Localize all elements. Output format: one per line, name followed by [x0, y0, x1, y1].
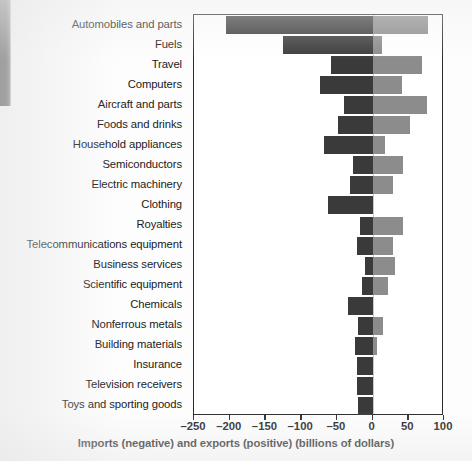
bar-row [194, 196, 442, 214]
x-tick-label: 100 [434, 420, 453, 432]
x-axis-title: Imports (negative) and exports (positive… [0, 437, 472, 449]
bar-row [194, 277, 442, 295]
bar-imports [365, 257, 373, 275]
category-label: Toys and sporting goods [62, 398, 182, 410]
bar-row [194, 156, 442, 174]
category-label: Semiconductors [102, 158, 182, 170]
bar-exports [373, 217, 403, 235]
category-label: Foods and drinks [97, 118, 182, 130]
bar-exports [373, 156, 404, 174]
bar-exports [373, 237, 393, 255]
bar-row [194, 16, 442, 34]
bar-row [194, 397, 442, 415]
bar-row [194, 136, 442, 154]
bar-row [194, 357, 442, 375]
bar-exports [373, 76, 402, 94]
bar-row [194, 176, 442, 194]
bar-row [194, 96, 442, 114]
category-label: Scientific equipment [83, 278, 182, 290]
bar-imports [362, 277, 373, 295]
bar-imports [355, 337, 373, 355]
category-label: Electric machinery [92, 178, 182, 190]
bar-imports [324, 136, 373, 154]
x-tick-label: –50 [326, 420, 345, 432]
x-tick-label: –100 [288, 420, 313, 432]
bar-exports [373, 16, 429, 34]
category-label: Chemicals [130, 298, 182, 310]
bar-imports [357, 237, 373, 255]
x-tick-label: 0 [368, 420, 374, 432]
x-tick-label: –250 [180, 420, 205, 432]
bar-row [194, 56, 442, 74]
category-label: Nonferrous metals [91, 318, 182, 330]
bar-imports [357, 377, 373, 395]
bar-exports [373, 176, 393, 194]
bar-exports [373, 317, 383, 335]
category-label: Computers [128, 78, 182, 90]
bar-row [194, 297, 442, 315]
bar-row [194, 217, 442, 235]
bar-exports [373, 257, 395, 275]
category-label: Television receivers [85, 378, 182, 390]
bar-imports [283, 36, 372, 54]
bar-row [194, 116, 442, 134]
category-label: Royalties [136, 218, 182, 230]
bar-imports [226, 16, 372, 34]
x-tick-label: –150 [252, 420, 277, 432]
bar-row [194, 317, 442, 335]
category-label: Aircraft and parts [98, 98, 182, 110]
bar-row [194, 257, 442, 275]
bar-imports [320, 76, 372, 94]
bar-imports [353, 156, 372, 174]
bar-imports [344, 96, 373, 114]
bar-imports [350, 176, 373, 194]
bar-imports [360, 217, 373, 235]
x-tick-label: –200 [216, 420, 241, 432]
bar-exports [373, 96, 427, 114]
bar-row [194, 76, 442, 94]
category-label: Travel [152, 58, 182, 70]
bar-row [194, 377, 442, 395]
category-label: Automobiles and parts [72, 18, 182, 30]
category-label: Telecommunications equipment [27, 238, 182, 250]
category-label: Business services [93, 258, 182, 270]
category-label: Household appliances [73, 138, 182, 150]
bar-row [194, 337, 442, 355]
bar-imports [357, 357, 373, 375]
bar-exports [373, 116, 410, 134]
bar-imports [328, 196, 372, 214]
bar-imports [348, 297, 372, 315]
x-tick-label: 50 [401, 420, 414, 432]
bar-exports [373, 56, 422, 74]
category-label: Clothing [141, 198, 182, 210]
bar-row [194, 36, 442, 54]
bar-exports [373, 136, 385, 154]
category-label: Fuels [155, 38, 182, 50]
bar-exports [373, 277, 388, 295]
bar-imports [331, 56, 372, 74]
category-label: Insurance [133, 358, 182, 370]
x-axis-tick-labels: –250–200–150–100–50050100 [0, 420, 472, 436]
plot-area [193, 14, 443, 415]
chart-page: Automobiles and partsFuelsTravelComputer… [0, 0, 472, 461]
bar-exports [373, 337, 377, 355]
bar-exports [373, 36, 382, 54]
category-label: Building materials [95, 338, 182, 350]
bar-row [194, 237, 442, 255]
bar-imports [358, 317, 372, 335]
bar-imports [338, 116, 372, 134]
category-axis-labels: Automobiles and partsFuelsTravelComputer… [0, 14, 188, 415]
bar-imports [358, 397, 373, 415]
